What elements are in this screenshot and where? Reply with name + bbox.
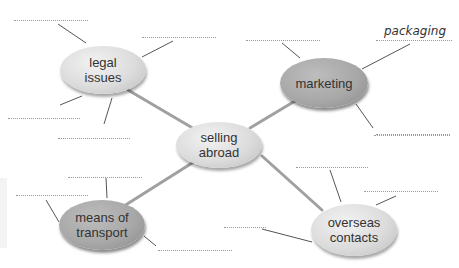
answer-blank[interactable] [364, 191, 438, 192]
answer-blank[interactable] [158, 250, 232, 251]
node-legal-issues: legalissues [60, 46, 146, 94]
answer-blank[interactable] [246, 40, 320, 41]
answer-blank[interactable] [14, 20, 88, 21]
node-label: marketing [295, 76, 352, 91]
answer-blank[interactable] [68, 177, 142, 178]
answer-blank-filled[interactable] [376, 40, 452, 41]
node-marketing: marketing [280, 58, 368, 108]
node-label: means of [75, 210, 128, 225]
node-means-of-transport: means oftransport [59, 200, 145, 250]
node-overseas-contacts: overseascontacts [311, 204, 397, 256]
answer-blank[interactable] [16, 195, 88, 196]
node-selling-abroad: sellingabroad [176, 122, 262, 168]
answer-blank[interactable] [374, 135, 450, 136]
node-label: contacts [328, 230, 381, 245]
answer-blank[interactable] [58, 138, 130, 139]
node-label: selling [199, 130, 239, 145]
page-edge [0, 178, 7, 248]
node-label: legal [85, 55, 122, 70]
mind-map: packaging legalissues marketing sellinga… [0, 0, 459, 268]
answer-blank[interactable] [296, 167, 368, 168]
node-label: transport [75, 225, 128, 240]
node-label: overseas [328, 215, 381, 230]
node-label: abroad [199, 145, 239, 160]
node-label: issues [85, 70, 122, 85]
answer-blank[interactable] [142, 37, 216, 38]
answer-packaging: packaging [384, 24, 446, 38]
answer-blank[interactable] [8, 118, 80, 119]
answer-blank[interactable] [224, 227, 266, 228]
